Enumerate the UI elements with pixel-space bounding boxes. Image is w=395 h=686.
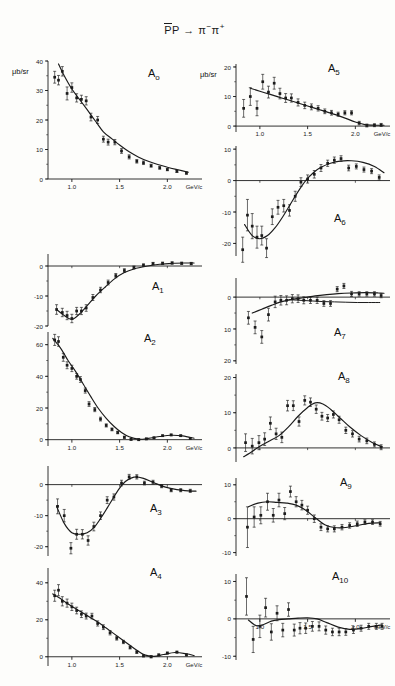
data-point — [61, 311, 64, 314]
panel-label-a3: A3 — [150, 502, 162, 517]
panel-label-sub: 10 — [339, 576, 348, 585]
data-point — [267, 313, 270, 316]
data-point — [380, 124, 383, 127]
panel-label-sub: 7 — [341, 332, 345, 341]
data-point — [256, 107, 259, 110]
data-point — [66, 602, 69, 605]
y-tick-label: -10 — [222, 209, 232, 216]
data-point — [274, 301, 277, 304]
x-tick-label: 1.5 — [115, 444, 124, 451]
panel-label-sub: 3 — [157, 508, 161, 517]
data-point — [111, 428, 114, 431]
data-point — [266, 500, 269, 503]
data-point — [252, 638, 255, 641]
panel-label-sub: 8 — [345, 376, 349, 385]
data-point — [244, 441, 247, 444]
data-point — [142, 161, 145, 164]
x-tick-label: 2.0 — [163, 661, 172, 668]
data-point — [360, 627, 363, 630]
data-point — [99, 418, 102, 421]
data-point — [128, 476, 131, 479]
data-point — [304, 627, 307, 630]
panel-label-a10: A10 — [332, 570, 348, 585]
data-point — [293, 629, 296, 632]
y-tick-label: 0 — [40, 263, 44, 270]
data-point — [330, 111, 333, 114]
data-point — [352, 629, 355, 632]
data-point — [289, 490, 292, 493]
data-point — [62, 356, 65, 359]
data-point — [261, 80, 264, 83]
data-point — [114, 274, 117, 277]
x-tick-label: 1.5 — [303, 130, 312, 137]
data-point — [122, 641, 125, 644]
data-point — [92, 296, 95, 299]
data-point — [180, 262, 183, 265]
data-point — [133, 266, 136, 269]
data-point — [313, 173, 316, 176]
data-point — [120, 482, 123, 485]
data-point — [142, 264, 145, 267]
panel-label-sub: 1 — [159, 286, 163, 295]
data-point — [381, 625, 384, 628]
y-tick-label: 20 — [36, 616, 43, 623]
y-tick-label: 30 — [36, 87, 43, 94]
data-point — [254, 326, 257, 329]
data-point — [313, 517, 316, 520]
data-point — [318, 625, 321, 628]
data-point — [56, 505, 59, 508]
data-point — [185, 654, 188, 657]
data-point — [297, 297, 300, 300]
y-tick-label: 40 — [36, 579, 43, 586]
data-point — [80, 98, 83, 101]
data-point — [375, 625, 378, 628]
plot-panel-a3: 0-10-20A3 — [40, 460, 230, 572]
data-point — [93, 408, 96, 411]
data-point — [107, 141, 110, 144]
data-point — [263, 438, 266, 441]
data-point — [75, 97, 78, 100]
data-point — [160, 485, 163, 488]
data-point — [61, 600, 64, 603]
data-point — [344, 429, 347, 432]
x-axis-label: GeV/c — [186, 184, 203, 190]
y-tick-label: 0 — [228, 123, 232, 130]
data-point — [87, 539, 90, 542]
data-point — [259, 625, 262, 628]
figure-title: PP → π−π+ — [0, 22, 389, 36]
data-point — [185, 172, 188, 175]
data-point — [137, 438, 140, 441]
data-point — [84, 389, 87, 392]
data-point — [152, 262, 155, 265]
y-tick-label: -10 — [222, 653, 232, 660]
data-point — [333, 528, 336, 531]
data-point — [320, 526, 323, 529]
data-point — [350, 293, 353, 296]
data-point — [306, 178, 309, 181]
data-point — [96, 622, 99, 625]
x-tick-label: 2.0 — [351, 130, 360, 137]
y-tick-label: 40 — [36, 373, 43, 380]
x-tick-label: 1.5 — [115, 661, 124, 668]
data-point — [310, 106, 313, 109]
data-point — [332, 413, 335, 416]
data-point — [363, 168, 366, 171]
data-point — [245, 595, 248, 598]
data-point — [81, 533, 84, 536]
data-point — [71, 367, 74, 370]
data-point — [356, 522, 359, 525]
data-point — [80, 613, 83, 616]
title-plus-sup: + — [220, 22, 225, 31]
data-point — [358, 122, 361, 125]
data-point — [336, 288, 339, 291]
data-point — [53, 594, 56, 597]
data-point — [260, 234, 263, 237]
y-tick-label: 10 — [36, 146, 43, 153]
data-point — [259, 514, 262, 517]
y-axis-label: μb/sr — [12, 67, 29, 76]
data-point — [343, 285, 346, 288]
data-point — [309, 401, 312, 404]
data-point — [157, 654, 160, 657]
data-point — [333, 159, 336, 162]
y-tick-label: 20 — [224, 374, 231, 381]
